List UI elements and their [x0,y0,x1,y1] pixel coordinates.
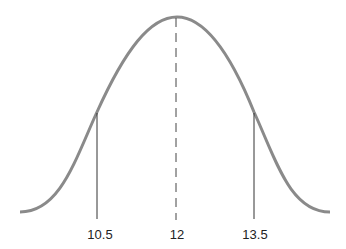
bell-curve [20,17,330,212]
label-right: 13.5 [242,227,267,242]
label-left: 10.5 [87,227,112,242]
normal-curve-diagram: 10.5 12 13.5 [0,0,346,249]
label-mean: 12 [170,227,184,242]
curve-svg [0,0,346,249]
